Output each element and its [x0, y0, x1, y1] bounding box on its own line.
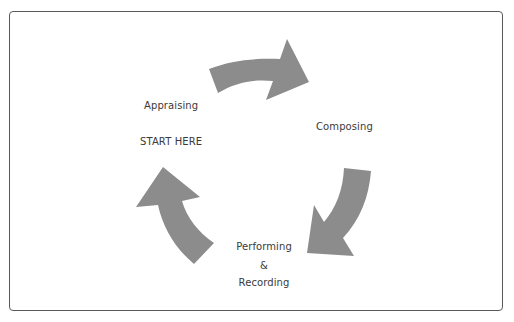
cycle-arrows [0, 0, 514, 322]
arrow-performing-to-appraising-icon [136, 167, 214, 264]
stage-label-recording: Recording [239, 277, 290, 289]
stage-label-appraising: Appraising [144, 100, 198, 112]
start-here-note: START HERE [140, 136, 202, 148]
stage-label-performing: Performing [236, 241, 292, 253]
stage-label-ampersand: & [260, 260, 268, 272]
arrow-appraising-to-composing-icon [209, 39, 309, 100]
stage-label-composing: Composing [316, 121, 373, 133]
arrow-composing-to-performing-icon [307, 168, 371, 256]
